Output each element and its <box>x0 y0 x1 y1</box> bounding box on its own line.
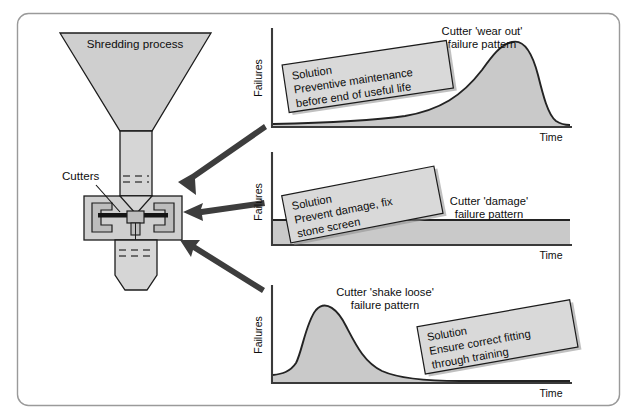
chart-shake-loose-xlabel: Time <box>539 387 562 399</box>
chart-wear-out-pattern-label-2: failure pattern <box>448 38 516 50</box>
arrow-to-shake-loose <box>180 240 265 293</box>
chart-shake-loose: Failures Time Cutter 'shake loose' failu… <box>252 285 581 399</box>
chart-shake-loose-callout: Solution Ensure correct fitting through … <box>417 299 581 377</box>
chart-wear-out-ylabel: Failures <box>252 59 264 97</box>
chart-damage: Failures Time Cutter 'damage' failure pa… <box>252 152 572 261</box>
chart-wear-out-pattern-label-1: Cutter 'wear out' <box>442 25 523 37</box>
chart-damage-pattern-label-1: Cutter 'damage' <box>450 195 528 207</box>
chart-shake-loose-pattern-label-1: Cutter 'shake loose' <box>336 286 434 298</box>
chart-wear-out: Failures Time Cutter 'wear out' failure … <box>252 25 572 143</box>
hopper-label: Shredding process <box>87 37 184 50</box>
outlet-pipe <box>115 240 157 290</box>
chart-damage-pattern-label-2: failure pattern <box>455 208 523 220</box>
chart-wear-out-xlabel: Time <box>539 131 562 143</box>
chart-wear-out-callout: Solution Preventive maintenance before e… <box>282 40 457 115</box>
cutters-label: Cutters <box>62 169 100 182</box>
chart-damage-xlabel: Time <box>539 249 562 261</box>
chart-damage-ylabel: Failures <box>252 183 264 221</box>
figure-root: Shredding process Cutters Failures Time <box>0 0 638 419</box>
neck-pipe <box>120 131 152 196</box>
chart-shake-loose-pattern-label-2: failure pattern <box>351 299 419 311</box>
chart-shake-loose-ylabel: Failures <box>252 316 264 354</box>
cutter-hub <box>127 211 144 223</box>
